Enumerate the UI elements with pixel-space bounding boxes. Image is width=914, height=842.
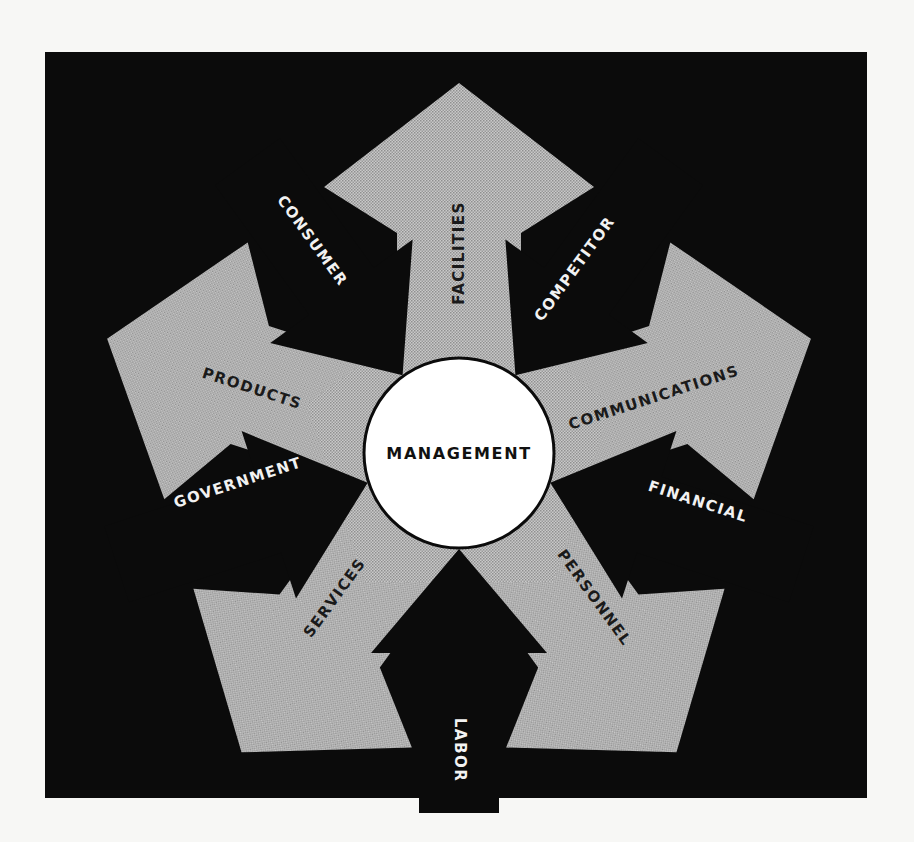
page: MANAGEMENT FACILITIES COMMUNICATIONS PER…	[0, 0, 914, 842]
management-label: MANAGEMENT	[386, 444, 531, 463]
label-facilities: FACILITIES	[450, 201, 468, 305]
management-forces-diagram: MANAGEMENT FACILITIES COMMUNICATIONS PER…	[0, 0, 914, 842]
label-labor: LABOR	[451, 718, 469, 782]
management-circle: MANAGEMENT	[364, 358, 554, 548]
